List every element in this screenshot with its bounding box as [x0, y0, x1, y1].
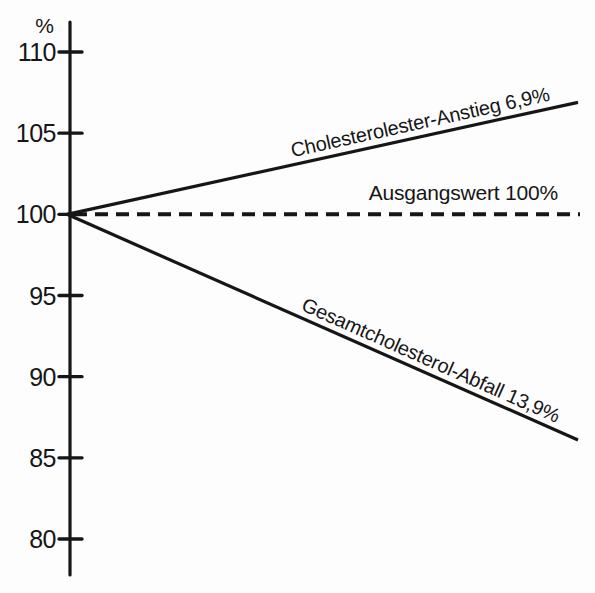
series-line-gesamtcholesterol-abfall	[67, 214, 578, 440]
series-label-ausgangswert: Ausgangswert 100%	[369, 181, 558, 205]
plot-canvas	[0, 0, 595, 593]
y-tick-label: 110	[0, 38, 56, 66]
y-axis-unit-label: %	[35, 14, 54, 38]
y-tick-label: 100	[0, 200, 56, 228]
chart-figure: % 11010510095908580 Cholesterolester-Ans…	[0, 0, 595, 593]
y-tick-label: 80	[0, 525, 56, 553]
y-tick-label: 95	[0, 282, 56, 310]
y-tick-label: 85	[0, 444, 56, 472]
y-tick-label: 105	[0, 119, 56, 147]
y-tick-label: 90	[0, 363, 56, 391]
